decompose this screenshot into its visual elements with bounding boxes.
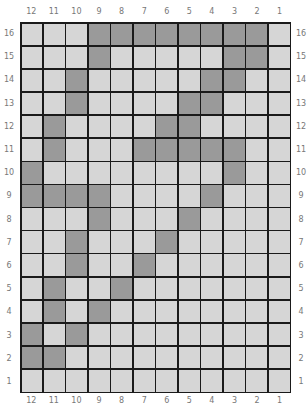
row-label: 9 <box>292 184 308 207</box>
row-label: 10 <box>292 161 308 184</box>
grid-cell-r16-c11 <box>44 24 65 46</box>
grid-cell-r13-c11 <box>44 93 65 115</box>
grid-cell-r6-c10 <box>66 254 87 276</box>
row-label: 1 <box>292 370 308 393</box>
grid-cell-r11-c11 <box>44 139 65 161</box>
column-labels-bottom: 121110987654321 <box>20 395 291 407</box>
grid-cell-r3-c9 <box>89 324 110 346</box>
grid-cell-r8-c3 <box>224 208 245 230</box>
grid-cell-r7-c4 <box>201 231 222 253</box>
grid-cell-r9-c1 <box>269 185 290 207</box>
grid-cell-r11-c8 <box>111 139 132 161</box>
grid-cell-r7-c7 <box>134 231 155 253</box>
row-label: 11 <box>292 138 308 161</box>
grid-cell-r14-c1 <box>269 70 290 92</box>
grid-cell-r5-c9 <box>89 278 110 300</box>
grid-cell-r7-c2 <box>246 231 267 253</box>
grid-cell-r16-c10 <box>66 24 87 46</box>
grid-cell-r11-c9 <box>89 139 110 161</box>
grid-cell-r11-c3 <box>224 139 245 161</box>
row-label: 15 <box>292 45 308 68</box>
grid-cell-r8-c2 <box>246 208 267 230</box>
row-label: 16 <box>0 22 18 45</box>
row-label: 7 <box>292 231 308 254</box>
grid-cell-r2-c5 <box>179 347 200 369</box>
row-label: 12 <box>292 115 308 138</box>
grid-cell-r15-c4 <box>201 47 222 69</box>
grid-cell-r16-c1 <box>269 24 290 46</box>
grid-cell-r13-c6 <box>156 93 177 115</box>
column-label: 1 <box>268 6 291 18</box>
grid-cell-r10-c9 <box>89 162 110 184</box>
row-label: 7 <box>0 231 18 254</box>
grid-cell-r2-c8 <box>111 347 132 369</box>
grid-cell-r13-c5 <box>179 93 200 115</box>
column-label: 7 <box>133 395 156 407</box>
grid-cell-r15-c8 <box>111 47 132 69</box>
grid-cell-r5-c5 <box>179 278 200 300</box>
grid-cell-r9-c11 <box>44 185 65 207</box>
grid-cell-r1-c12 <box>22 370 43 392</box>
grid-cell-r11-c7 <box>134 139 155 161</box>
grid-cell-r2-c9 <box>89 347 110 369</box>
grid-cell-r6-c2 <box>246 254 267 276</box>
grid-cell-r16-c8 <box>111 24 132 46</box>
row-label: 14 <box>0 68 18 91</box>
grid-cell-r13-c1 <box>269 93 290 115</box>
grid-cell-r4-c10 <box>66 301 87 323</box>
grid-cell-r8-c12 <box>22 208 43 230</box>
column-label: 8 <box>110 395 133 407</box>
column-label: 3 <box>223 395 246 407</box>
grid-cell-r16-c9 <box>89 24 110 46</box>
grid-cell-r1-c11 <box>44 370 65 392</box>
grid-cell-r15-c3 <box>224 47 245 69</box>
grid-cell-r8-c9 <box>89 208 110 230</box>
grid-cell-r1-c9 <box>89 370 110 392</box>
column-labels-top: 121110987654321 <box>20 6 291 18</box>
grid-cell-r5-c4 <box>201 278 222 300</box>
column-label: 8 <box>110 6 133 18</box>
grid-cell-r5-c2 <box>246 278 267 300</box>
grid-cell-r13-c8 <box>111 93 132 115</box>
grid-cell-r6-c4 <box>201 254 222 276</box>
grid-cell-r14-c2 <box>246 70 267 92</box>
grid-cell-r5-c3 <box>224 278 245 300</box>
grid-cell-r10-c4 <box>201 162 222 184</box>
grid-cell-r3-c3 <box>224 324 245 346</box>
grid-cell-r8-c5 <box>179 208 200 230</box>
column-label: 5 <box>178 395 201 407</box>
column-label: 1 <box>268 395 291 407</box>
grid-cell-r9-c8 <box>111 185 132 207</box>
row-label: 8 <box>292 208 308 231</box>
grid-cell-r10-c5 <box>179 162 200 184</box>
grid-cell-r10-c1 <box>269 162 290 184</box>
grid-cell-r8-c6 <box>156 208 177 230</box>
grid-cell-r9-c2 <box>246 185 267 207</box>
grid-cell-r5-c7 <box>134 278 155 300</box>
row-label: 15 <box>0 45 18 68</box>
grid-cell-r14-c6 <box>156 70 177 92</box>
grid-cell-r4-c6 <box>156 301 177 323</box>
grid-cell-r5-c6 <box>156 278 177 300</box>
grid-cell-r3-c7 <box>134 324 155 346</box>
row-label: 6 <box>292 254 308 277</box>
grid-cell-r13-c9 <box>89 93 110 115</box>
grid-cell-r2-c3 <box>224 347 245 369</box>
row-label: 5 <box>292 277 308 300</box>
grid-cell-r3-c1 <box>269 324 290 346</box>
row-labels-right: 16151413121110987654321 <box>292 22 308 393</box>
grid-cell-r1-c10 <box>66 370 87 392</box>
grid-cell-r6-c12 <box>22 254 43 276</box>
grid-cell-r10-c2 <box>246 162 267 184</box>
grid-cell-r7-c8 <box>111 231 132 253</box>
grid-cell-r13-c7 <box>134 93 155 115</box>
grid-cell-r2-c4 <box>201 347 222 369</box>
grid-cell-r13-c2 <box>246 93 267 115</box>
grid-cell-r14-c7 <box>134 70 155 92</box>
grid-cell-r4-c1 <box>269 301 290 323</box>
grid-cell-r15-c5 <box>179 47 200 69</box>
grid-cell-r12-c5 <box>179 116 200 138</box>
grid-cell-r8-c7 <box>134 208 155 230</box>
grid-cell-r9-c7 <box>134 185 155 207</box>
grid-cell-r12-c9 <box>89 116 110 138</box>
